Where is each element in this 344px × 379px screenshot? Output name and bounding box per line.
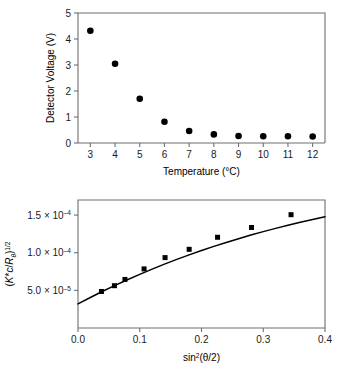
data-point <box>235 133 242 140</box>
x-tick-label: 9 <box>236 149 242 160</box>
data-point <box>112 283 117 288</box>
y-tick-label: 4 <box>65 34 71 45</box>
data-point <box>309 133 316 140</box>
x-tick-label: 4 <box>112 149 118 160</box>
x-tick-label: 0.2 <box>195 334 209 345</box>
x-tick-label: 6 <box>162 149 168 160</box>
data-point <box>161 118 168 125</box>
y-tick-label: 2 <box>65 86 71 97</box>
plot-area-top: 0123453456789101112Temperature (°C)Detec… <box>45 8 325 177</box>
x-tick-label: 0.1 <box>133 334 147 345</box>
y-tick-label: 1.0 × 10–4 <box>27 247 71 258</box>
zimm-plot-chart: 5.0 × 10–51.0 × 10–41.5 × 10–40.00.10.20… <box>0 188 344 379</box>
chart-panel-zimm-plot: 5.0 × 10–51.0 × 10–41.5 × 10–40.00.10.20… <box>0 188 344 379</box>
y-tick-label: 1.5 × 10–4 <box>27 209 71 220</box>
y-axis-title: (K*c/Rθ)1/2 <box>4 241 17 286</box>
x-axis-title: Temperature (°C) <box>163 166 240 177</box>
x-axis-title: sin2(θ/2) <box>183 352 220 363</box>
data-point <box>285 133 292 140</box>
data-point <box>112 60 119 67</box>
data-point <box>215 235 220 240</box>
data-point <box>142 266 147 271</box>
data-point <box>163 255 168 260</box>
x-tick-label: 3 <box>88 149 94 160</box>
x-tick-label: 8 <box>211 149 217 160</box>
data-series-detector-voltage <box>87 27 316 139</box>
data-point <box>136 96 143 103</box>
y-tick-label: 0 <box>65 138 71 149</box>
x-tick-label: 0.3 <box>256 334 270 345</box>
data-point <box>249 225 254 230</box>
y-tick-label: 5.0 × 10–5 <box>27 285 71 296</box>
x-tick-label: 0.0 <box>71 334 85 345</box>
detector-voltage-chart: 0123453456789101112Temperature (°C)Detec… <box>0 0 344 188</box>
x-tick-label: 7 <box>186 149 192 160</box>
plot-frame <box>78 13 325 143</box>
y-tick-label: 1 <box>65 112 71 123</box>
y-axis-title: Detector Voltage (V) <box>45 33 56 123</box>
plot-area-bottom: 5.0 × 10–51.0 × 10–41.5 × 10–40.00.10.20… <box>4 200 333 363</box>
x-tick-label: 5 <box>137 149 143 160</box>
data-point <box>99 289 104 294</box>
x-tick-label: 10 <box>258 149 270 160</box>
data-point <box>260 133 267 140</box>
data-point <box>122 277 127 282</box>
data-point <box>187 247 192 252</box>
fit-curve <box>78 217 325 304</box>
x-tick-label: 0.4 <box>318 334 332 345</box>
y-tick-label: 5 <box>65 8 71 19</box>
data-point <box>87 27 94 34</box>
data-point <box>289 212 294 217</box>
data-point <box>186 128 193 135</box>
chart-panel-detector-voltage: 0123453456789101112Temperature (°C)Detec… <box>0 0 344 188</box>
data-point <box>211 131 218 138</box>
x-tick-label: 12 <box>307 149 319 160</box>
y-tick-label: 3 <box>65 60 71 71</box>
scientific-figure: 0123453456789101112Temperature (°C)Detec… <box>0 0 344 379</box>
x-tick-label: 11 <box>283 149 294 160</box>
plot-frame <box>78 200 325 328</box>
